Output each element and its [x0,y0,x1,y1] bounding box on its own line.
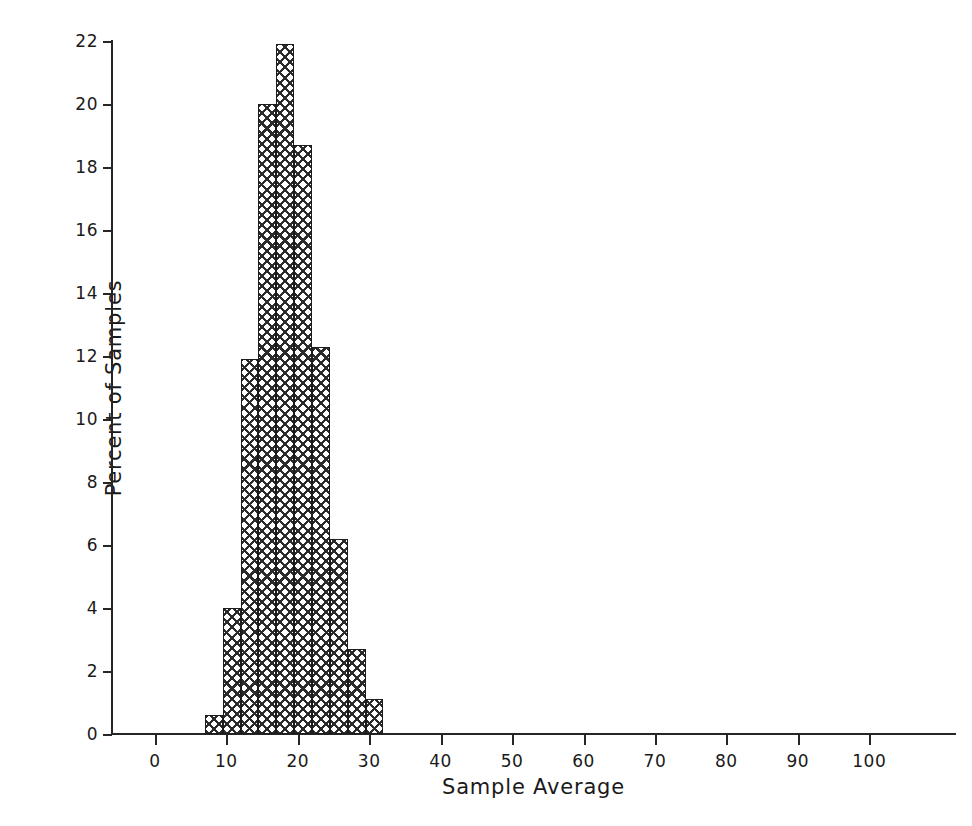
x-tick-mark [369,735,371,745]
x-tick-label: 60 [572,751,595,771]
histogram-figure: Percent of Samples 0246810121416182022 0… [0,0,972,826]
histogram-bar [241,359,259,734]
y-tick-mark [103,230,112,232]
histogram-bar [312,347,330,734]
x-tick-mark [726,735,728,745]
histogram-bar [205,715,223,734]
y-tick-label: 8 [87,472,98,492]
histogram-bar [223,608,241,734]
x-tick-mark [869,735,871,745]
x-tick-mark [798,735,800,745]
histogram-bars [112,41,955,734]
y-tick-mark [103,41,112,43]
y-tick-label: 0 [87,724,98,744]
y-tick-label: 20 [75,94,98,114]
y-tick-mark [103,734,112,736]
y-tick-mark [103,104,112,106]
x-tick-mark [155,735,157,745]
y-tick-mark [103,482,112,484]
y-tick-label: 12 [75,346,98,366]
x-tick-mark [655,735,657,745]
y-tick-mark [103,608,112,610]
y-tick-label: 4 [87,598,98,618]
x-tick-label: 30 [358,751,381,771]
x-axis-label: Sample Average [112,775,955,799]
y-tick-label: 6 [87,535,98,555]
y-tick-mark [103,545,112,547]
y-tick-mark [103,419,112,421]
histogram-bar [258,104,276,734]
x-tick-mark [226,735,228,745]
histogram-bar [276,44,294,734]
x-tick-label: 90 [787,751,810,771]
x-tick-mark [512,735,514,745]
x-tick-label: 80 [715,751,738,771]
y-tick-mark [103,293,112,295]
x-tick-label: 50 [501,751,524,771]
y-tick-label: 16 [75,220,98,240]
x-tick-mark [298,735,300,745]
histogram-bar [330,539,348,734]
y-tick-label: 22 [75,31,98,51]
y-tick-mark [103,356,112,358]
y-tick-label: 18 [75,157,98,177]
y-axis-label-holder: Percent of Samples [14,41,54,734]
x-tick-label: 20 [286,751,309,771]
y-tick-mark [103,167,112,169]
histogram-bar [366,699,384,734]
x-tick-mark [584,735,586,745]
x-tick-mark [441,735,443,745]
y-tick-label: 10 [75,409,98,429]
plot-area [112,41,955,734]
x-tick-label: 0 [149,751,160,771]
x-tick-label: 100 [852,751,886,771]
histogram-bar [348,649,366,734]
x-tick-label: 40 [429,751,452,771]
histogram-bar [294,145,312,734]
y-tick-mark [103,671,112,673]
y-tick-label: 2 [87,661,98,681]
y-tick-label: 14 [75,283,98,303]
x-tick-label: 70 [644,751,667,771]
x-tick-label: 10 [215,751,238,771]
